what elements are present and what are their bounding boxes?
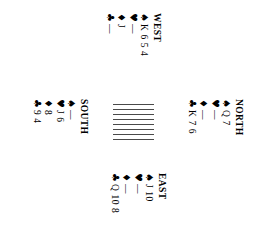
spade-icon: ♠ xyxy=(139,13,151,24)
diamond-icon: ♦ xyxy=(121,173,133,184)
hand-east-club-cards: Q 10 8 xyxy=(109,184,121,213)
heart-icon: ♥ xyxy=(210,99,222,110)
heart-icon: ♥ xyxy=(133,173,145,184)
hand-north-spade-cards: Q 7 xyxy=(220,110,232,126)
hand-south-label: SOUTH xyxy=(78,99,90,134)
hatch-line xyxy=(113,104,154,105)
heart-icon: ♥ xyxy=(55,99,67,110)
hand-west-spade-cards: K 6 5 4 xyxy=(138,24,150,56)
hand-east-label: EAST xyxy=(156,173,168,199)
hand-north-suit-club: ♣ K 7 6 xyxy=(187,99,199,134)
hand-north-diamond-cards: — xyxy=(197,110,209,120)
hand-south-diamond-cards: 8 xyxy=(42,110,54,115)
hand-north-suit-diamond: ♦ — xyxy=(198,99,210,120)
hand-north-club-cards: K 7 6 xyxy=(186,110,198,134)
club-icon: ♣ xyxy=(32,99,44,110)
hand-south-suit-spade: ♠ — xyxy=(66,99,78,120)
hand-south-heart-cards: J 6 xyxy=(54,110,66,123)
hand-west-label: WEST xyxy=(151,13,163,42)
hand-west-diamond-cards: J xyxy=(115,24,127,28)
spade-icon: ♠ xyxy=(221,99,233,110)
hand-south: SOUTH ♠ — ♥ J 6 ♦ 8 ♣ 9 4 xyxy=(32,99,91,134)
hand-west-suit-club: ♣ — xyxy=(105,13,117,34)
hatch-line xyxy=(113,134,154,135)
hand-south-spade-cards: — xyxy=(65,110,77,120)
hand-north-suit-spade: ♠ Q 7 xyxy=(221,99,233,126)
hatch-line xyxy=(113,119,154,120)
hand-south-suit-heart: ♥ J 6 xyxy=(55,99,67,123)
hand-west-heart-cards: — xyxy=(127,24,139,34)
hand-north-suit-heart: ♥ — xyxy=(210,99,222,120)
hand-east-suit-diamond: ♦ — xyxy=(121,173,133,194)
hand-east-heart-cards: — xyxy=(132,184,144,194)
hatch-line xyxy=(113,124,154,125)
hand-south-suit-club: ♣ 9 4 xyxy=(32,99,44,124)
hand-north-heart-cards: — xyxy=(209,110,221,120)
hand-east: EAST ♠ J 10 ♥ — ♦ — ♣ Q 10 8 xyxy=(110,173,169,213)
hand-east-spade-cards: J 10 xyxy=(143,184,155,202)
hatch-line xyxy=(113,139,154,140)
club-icon: ♣ xyxy=(187,99,199,110)
hand-east-suit-heart: ♥ — xyxy=(133,173,145,194)
spade-icon: ♠ xyxy=(66,99,78,110)
hatch-line xyxy=(113,114,154,115)
club-icon: ♣ xyxy=(105,13,117,24)
hand-west-club-cards: — xyxy=(104,24,116,34)
hand-south-suit-diamond: ♦ 8 xyxy=(43,99,55,115)
hand-west-suit-diamond: ♦ J xyxy=(116,13,128,28)
spade-icon: ♠ xyxy=(144,173,156,184)
diamond-icon: ♦ xyxy=(198,99,210,110)
hatch-line xyxy=(113,109,154,110)
hand-west-suit-spade: ♠ K 6 5 4 xyxy=(139,13,151,56)
hand-west-suit-heart: ♥ — xyxy=(128,13,140,34)
hand-east-suit-spade: ♠ J 10 xyxy=(144,173,156,202)
diamond-icon: ♦ xyxy=(116,13,128,24)
hand-east-diamond-cards: — xyxy=(120,184,132,194)
hand-north: NORTH ♠ Q 7 ♥ — ♦ — ♣ K 7 6 xyxy=(187,99,246,136)
hand-west: WEST ♠ K 6 5 4 ♥ — ♦ J ♣ — xyxy=(105,13,164,56)
hatch-line xyxy=(113,129,154,130)
heart-icon: ♥ xyxy=(128,13,140,24)
bridge-hand-diagram: WEST ♠ K 6 5 4 ♥ — ♦ J ♣ — NORTH ♠ Q 7 ♥… xyxy=(0,0,262,243)
diamond-icon: ♦ xyxy=(43,99,55,110)
center-hatched-box xyxy=(113,104,154,140)
hand-north-label: NORTH xyxy=(233,99,245,136)
hand-east-suit-club: ♣ Q 10 8 xyxy=(110,173,122,213)
hand-south-club-cards: 9 4 xyxy=(31,110,43,124)
club-icon: ♣ xyxy=(110,173,122,184)
